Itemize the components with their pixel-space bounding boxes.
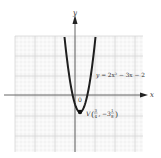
- y-axis-label: y: [72, 9, 78, 17]
- equation-eq: =: [101, 72, 106, 78]
- vertex-y-num: 1: [111, 108, 114, 113]
- x-axis-arrow-icon: [140, 93, 148, 98]
- equation-rhs: 2x² − 3x − 2: [108, 72, 145, 78]
- vertex-point: [78, 110, 82, 114]
- origin-label: 0: [78, 96, 82, 103]
- parabola-figure: y x 0 y = 2x² − 3x − 2 V ( 3 4 , − 3 1 8…: [0, 0, 161, 158]
- equation-lhs: y: [95, 72, 100, 79]
- vertex-comma: ,: [99, 110, 101, 117]
- x-axis-label: x: [150, 91, 154, 99]
- vertex-close-paren: ): [115, 110, 118, 119]
- equation-label: y = 2x² − 3x − 2: [95, 72, 145, 79]
